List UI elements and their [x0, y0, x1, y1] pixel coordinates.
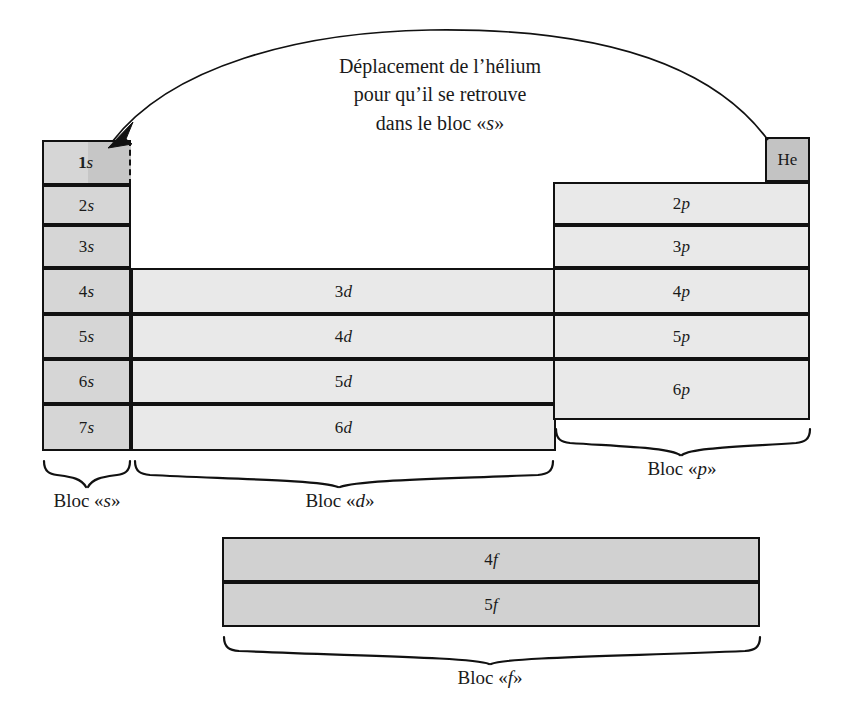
cell-5d: 5d — [131, 359, 556, 404]
cell-4p-label: 4p — [673, 283, 690, 300]
cell-5f: 5f — [222, 582, 760, 627]
cell-2p: 2p — [553, 182, 810, 225]
cell-3s-label: 3s — [79, 238, 95, 255]
cell-5p-label: 5p — [673, 328, 690, 345]
cell-6p: 6p — [553, 359, 810, 420]
cell-2s: 2s — [42, 185, 131, 225]
cell-3d-label: 3d — [335, 283, 352, 300]
label-bloc-d: Bloc «d» — [280, 489, 400, 513]
label-bloc-p: Bloc «p» — [622, 457, 742, 481]
cell-4f-label: 4f — [484, 551, 498, 568]
cell-7s: 7s — [42, 404, 131, 451]
cell-5d-label: 5d — [335, 373, 352, 390]
block-diagram-canvas: 1s 2s 3s 4s 5s 6s 7s 1s 3d 4d 5d 6d He 2… — [0, 0, 857, 724]
cell-3p: 3p — [553, 225, 810, 268]
brace-p-block — [556, 429, 810, 455]
helium-move-caption: Déplacement de l’hélium pour qu’il se re… — [330, 52, 550, 137]
caption-line-2: pour qu’il se retrouve — [330, 80, 550, 108]
cell-6d-label: 6d — [335, 419, 352, 436]
cell-6d: 6d — [131, 404, 556, 451]
cell-3d: 3d — [131, 268, 556, 314]
label-bloc-f: Bloc «f» — [430, 666, 550, 690]
cell-5f-label: 5f — [484, 596, 498, 613]
cell-4p: 4p — [553, 268, 810, 314]
brace-s-block — [44, 461, 130, 487]
caption-line-3: dans le bloc «s» — [330, 109, 550, 137]
cell-7s-label: 7s — [79, 419, 95, 436]
cell-4f: 4f — [222, 537, 760, 582]
helium-symbol: He — [777, 151, 797, 168]
label-bloc-s: Bloc «s» — [27, 489, 147, 513]
cell-6s: 6s — [42, 359, 131, 404]
cell-6s-label: 6s — [79, 373, 95, 390]
cell-3s: 3s — [42, 225, 131, 268]
cell-helium: He — [765, 137, 810, 182]
cell-2s-label: 2s — [79, 197, 95, 214]
brace-d-block — [135, 461, 553, 487]
cell-1s-overlay: 1s — [42, 140, 131, 185]
cell-3p-label: 3p — [673, 238, 690, 255]
cell-4s-label: 4s — [79, 283, 95, 300]
caption-line-1: Déplacement de l’hélium — [330, 52, 550, 80]
cell-1s-label-overlay: 1s — [78, 154, 94, 171]
cell-5p: 5p — [553, 314, 810, 359]
brace-f-block — [224, 637, 760, 664]
cell-4d: 4d — [131, 314, 556, 359]
cell-5s-label: 5s — [79, 328, 95, 345]
cell-2p-label: 2p — [673, 195, 690, 212]
cell-6p-label: 6p — [673, 381, 690, 398]
cell-5s: 5s — [42, 314, 131, 359]
cell-4d-label: 4d — [335, 328, 352, 345]
cell-4s: 4s — [42, 268, 131, 314]
